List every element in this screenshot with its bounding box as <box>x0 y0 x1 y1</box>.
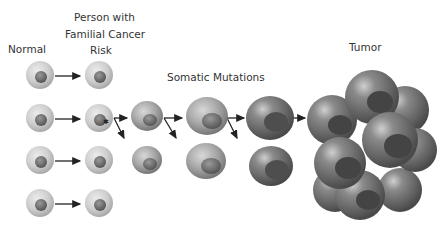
familial-risk-cells: ✱ <box>85 61 113 217</box>
cancer-progression-diagram: ✱ <box>0 0 444 234</box>
tumor-cluster <box>307 70 437 220</box>
normal-cells <box>26 61 54 217</box>
mutated-cells <box>131 96 294 186</box>
svg-text:✱: ✱ <box>103 118 109 126</box>
